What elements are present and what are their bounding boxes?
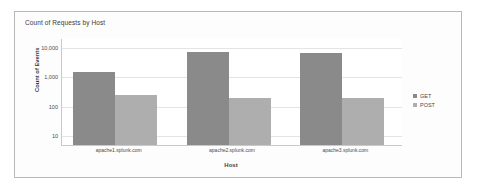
x-axis-tick-label: apache1.splunk.com — [62, 147, 175, 153]
y-axis-title: Count of Events — [34, 48, 40, 92]
bar-get[interactable] — [300, 53, 342, 145]
y-axis-tick-label: 10,000 — [41, 45, 58, 51]
bar-group — [289, 39, 402, 145]
y-axis-tick-label: 100 — [49, 104, 58, 110]
legend-item-label: POST — [420, 102, 435, 108]
legend-swatch-icon — [413, 103, 417, 107]
bar-post[interactable] — [229, 98, 271, 145]
page-title: Count of Requests by Host — [25, 19, 105, 26]
legend-item-label: GET — [420, 93, 431, 99]
x-axis-title: Host — [61, 162, 401, 168]
y-axis-tick-label: 1,000 — [44, 74, 58, 80]
y-axis-tick-label: 10 — [52, 133, 58, 139]
legend-swatch-icon — [413, 94, 417, 98]
legend-item[interactable]: POST — [413, 102, 435, 108]
bar-post[interactable] — [115, 95, 157, 145]
bar-post[interactable] — [342, 98, 384, 145]
bar-get[interactable] — [187, 52, 229, 145]
bar-get[interactable] — [73, 72, 115, 145]
x-axis-tick-label: apache2.splunk.com — [175, 147, 288, 153]
bar-group — [62, 39, 175, 145]
legend-item[interactable]: GET — [413, 93, 435, 99]
x-axis-tick-label: apache3.splunk.com — [289, 147, 402, 153]
bar-group — [175, 39, 288, 145]
plot-area: 101001,00010,000apache1.splunk.comapache… — [61, 39, 402, 146]
chart-legend: GETPOST — [413, 93, 435, 111]
chart-panel: Count of Requests by Host Count of Event… — [14, 11, 462, 178]
